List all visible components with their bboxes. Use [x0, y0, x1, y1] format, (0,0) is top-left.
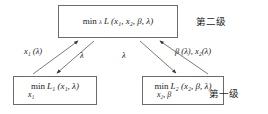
edge-label-lambda-left: λ: [80, 51, 84, 60]
edge-label-x1-lambda: x₁ (λ): [24, 47, 42, 56]
master-problem-formula: min λ L (x₁, x₂, β, λ): [83, 17, 153, 26]
subproblem-1-formula: min L₁ (x₁, λ): [31, 82, 79, 91]
subproblem-1-objective-expression: L₁ (x₁, λ): [47, 82, 79, 91]
min-operator-lambda: min λ: [83, 17, 102, 26]
edge-label-lambda-right: λ: [122, 51, 126, 60]
master-problem-box[interactable]: min λ L (x₁, x₂, β, λ): [58, 5, 178, 38]
edge-label-beta-x2: β (λ), x₂(λ): [175, 47, 211, 56]
level-label-second: 第二级: [196, 17, 226, 27]
arrow-lambda-to-sub2: [140, 41, 176, 73]
master-objective-expression: L (x₁, x₂, β, λ): [104, 17, 153, 26]
level-label-first: 第一级: [209, 89, 239, 99]
arrow-lambda-to-sub1: [57, 41, 94, 73]
min-subscript-lambda: λ: [99, 18, 102, 25]
subproblem-1-box[interactable]: min L₁ (x₁, λ) x₁: [13, 76, 97, 105]
min-label: min: [83, 16, 97, 26]
subproblem-1-decision-variable: x₁: [28, 91, 34, 99]
subproblem-2-objective-expression: L₂ (x₂, β, λ): [171, 82, 212, 91]
subproblem-2-decision-variables: x₂, β: [157, 91, 171, 99]
diagram-canvas: min λ L (x₁, x₂, β, λ) min L₁ (x₁, λ) x₁…: [0, 0, 268, 114]
